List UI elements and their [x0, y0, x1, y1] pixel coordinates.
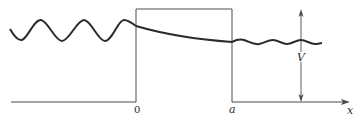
wavefunction-transmitted	[232, 40, 322, 45]
barrier-right-label: a	[229, 103, 236, 116]
potential-barrier-diagram: 0 a x V	[0, 0, 356, 120]
barrier-outline	[136, 9, 232, 102]
wavefunction-incident	[10, 20, 136, 41]
wavefunction-barrier	[136, 26, 232, 42]
height-label: V	[297, 51, 306, 64]
axis-label: x	[347, 104, 354, 117]
origin-label: 0	[134, 104, 140, 115]
